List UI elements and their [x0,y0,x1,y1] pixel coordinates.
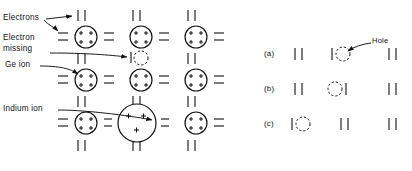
hole-sequence-panel [292,47,396,131]
atom-ge-r0c0 [75,26,97,48]
hbond-r0-left [58,33,68,40]
bond-pair-mid1-col0 [78,53,85,64]
bond-pair-a-0 [295,48,302,60]
hbond-r1-left [58,76,68,83]
bond-pair-top-col2 [188,10,195,21]
hole-marker-lattice [134,51,148,65]
hbond-r2-left [58,119,68,126]
hbond-r1-right [214,76,224,83]
atom-ge-r2c2 [185,112,207,134]
seq-row-a [295,47,396,61]
bond-pair-top-col1 [133,10,140,21]
atom-ge-r1c0 [75,69,97,91]
bond-pair-c-1 [341,118,348,130]
atom-ge-r0c1 [130,26,152,48]
leader-hole [348,43,371,51]
hbond-r1-c1c2 [159,76,169,83]
figure-canvas: Electrons Electron missing Ge ion Indium… [0,0,412,171]
bond-pair-a-2 [389,48,396,60]
atom-ge-r2c0 [75,112,97,134]
label-case-c: (c) [264,119,274,128]
hbond-r2-c0c1 [104,119,112,126]
atom-ge-r1c1 [130,69,152,91]
label-case-b: (b) [264,84,274,93]
leader-electrons-down [44,20,58,31]
label-ge-ion: Ge ion [5,60,30,69]
bond-pair-bottom-col0 [78,140,85,151]
bond-pair-c-2 [389,118,396,130]
bond-pair-top-col0 [78,10,85,21]
left-lattice [58,10,224,151]
label-electron-missing-line2: missing [3,44,32,53]
atom-indium-r2c1 [118,104,156,142]
leader-electrons-right [46,16,72,19]
bond-pair-bottom-col2 [188,140,195,151]
hbond-r0-c0c1 [104,33,114,40]
atom-ge-r0c2 [185,26,207,48]
label-electron-missing-line1: Electron [3,33,35,42]
seq-row-c [292,117,396,131]
label-case-a: (a) [264,49,274,58]
leader-electron-missing [50,53,127,57]
bond-pair-mid2-col0 [78,96,85,107]
bond-pair-b-0 [295,83,302,95]
hole-marker-c [296,117,310,131]
seq-row-b [295,82,396,96]
lattice-diagram-svg [0,0,412,171]
label-indium-ion: Indium ion [3,104,43,113]
bond-pair-mid2-col2 [188,96,195,107]
leader-ge-ion [40,66,78,74]
label-hole: Hole [372,36,388,45]
hbond-r1-c0c1 [104,76,114,83]
hbond-r2-c1c2 [161,119,169,126]
hbond-r0-right [214,33,224,40]
atom-ge-r1c2 [185,69,207,91]
hole-marker-b [328,82,342,96]
label-electrons: Electrons [3,13,39,22]
hole-marker-a [336,47,350,61]
bond-pair-mid1-col2 [188,53,195,64]
hbond-r0-c1c2 [159,33,169,40]
hbond-r2-right [214,119,224,126]
bond-pair-b-2 [389,83,396,95]
